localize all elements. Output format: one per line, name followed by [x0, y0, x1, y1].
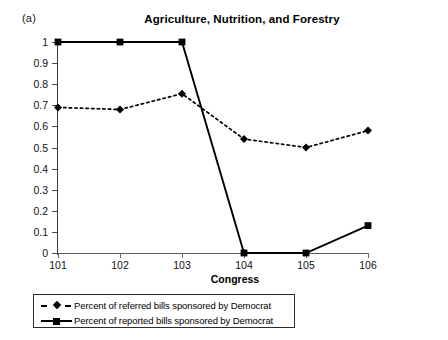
legend-item-referred: Percent of referred bills sponsored by D…: [40, 299, 288, 312]
legend-label-referred: Percent of referred bills sponsored by D…: [74, 300, 271, 311]
data-point-square-106: [365, 222, 372, 229]
data-point-diamond-106: [364, 127, 372, 135]
data-point-square-102: [117, 39, 124, 46]
legend-label-reported: Percent of reported bills sponsored by D…: [74, 315, 273, 326]
series-line-2: [58, 42, 368, 253]
data-point-square-105: [303, 250, 310, 257]
chart-legend: Percent of referred bills sponsored by D…: [33, 294, 295, 328]
data-point-diamond-102: [116, 106, 124, 114]
data-point-square-104: [241, 250, 248, 257]
legend-item-reported: Percent of reported bills sponsored by D…: [40, 314, 288, 327]
series-line-1: [58, 94, 368, 148]
series-plot: [0, 0, 448, 340]
data-point-square-101: [55, 39, 62, 46]
dashed-diamond-marker-icon: [40, 300, 74, 311]
chart-figure: (a) Agriculture, Nutrition, and Forestry…: [0, 0, 448, 340]
data-point-diamond-101: [54, 103, 62, 111]
data-point-diamond-105: [302, 144, 310, 152]
solid-square-marker-icon: [40, 315, 74, 326]
data-point-square-103: [179, 39, 186, 46]
plot-region: 00.10.20.30.40.50.60.70.80.91 1011021031…: [0, 0, 448, 340]
